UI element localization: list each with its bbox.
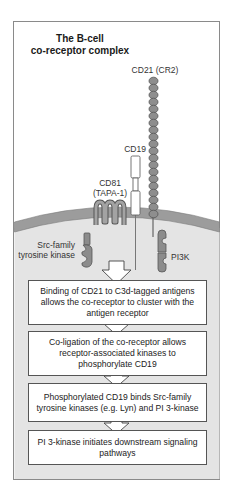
src-label-line-2: tyrosine kinase — [18, 250, 75, 260]
cd19-label: CD19 — [120, 144, 150, 154]
cd81-label-line-1: CD81 — [90, 178, 130, 188]
cd21-protein-icon — [149, 77, 158, 237]
src-kinase-label: Src-family tyrosine kinase — [18, 240, 75, 260]
pi3k-label: PI3K — [171, 252, 189, 262]
step-box-3: Phosphorylated CD19 binds Src-family tyr… — [28, 383, 207, 422]
src-label-line-1: Src-family — [18, 240, 75, 250]
cd81-label-line-2: (TAPA-1) — [90, 188, 130, 198]
step-box-1: Binding of CD21 to C3d-tagged antigens a… — [28, 280, 207, 325]
cd81-label: CD81 (TAPA-1) — [90, 178, 130, 198]
title-line-1: The B-cell — [30, 33, 130, 45]
step-box-2: Co-ligation of the co-receptor allows re… — [28, 331, 207, 376]
title-line-2: co-receptor complex — [30, 45, 130, 57]
pi3k-icon — [158, 230, 166, 272]
step-box-4: PI 3-kinase initiates downstream signali… — [28, 430, 207, 465]
cd21-label: CD21 (CR2) — [131, 65, 179, 75]
diagram-title: The B-cell co-receptor complex — [30, 33, 130, 57]
